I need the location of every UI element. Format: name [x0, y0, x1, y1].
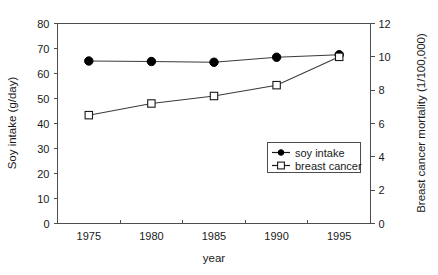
- legend-marker-breast-cancer: [278, 162, 285, 169]
- right-tick-label: 10: [379, 51, 391, 63]
- left-tick-label: 0: [43, 218, 49, 230]
- x-tick-label: 1995: [327, 230, 351, 242]
- data-point-soy-intake: [147, 57, 155, 65]
- right-tick-label: 6: [379, 118, 385, 130]
- x-axis-tick-labels: 19751980198519901995: [77, 230, 352, 242]
- data-point-breast-cancer: [148, 100, 155, 107]
- left-tick-label: 30: [37, 143, 49, 155]
- chart-legend: soy intakebreast cancer: [268, 143, 362, 173]
- x-tick-label: 1975: [77, 230, 101, 242]
- chart-container: 01020304050607080 024681012 197519801985…: [0, 0, 438, 275]
- line-chart: 01020304050607080 024681012 197519801985…: [0, 0, 438, 275]
- left-axis-title: Soy intake (g/day): [6, 76, 18, 169]
- left-tick-label: 80: [37, 18, 49, 30]
- left-tick-label: 50: [37, 93, 49, 105]
- x-axis-ticks: [120, 220, 308, 224]
- x-tick-label: 1990: [264, 230, 288, 242]
- right-tick-label: 8: [379, 84, 385, 96]
- right-tick-label: 2: [379, 184, 385, 196]
- left-tick-label: 20: [37, 168, 49, 180]
- left-tick-label: 60: [37, 68, 49, 80]
- plot-frame: [57, 23, 371, 224]
- data-point-soy-intake: [210, 58, 218, 66]
- data-point-soy-intake: [272, 53, 280, 61]
- left-axis-ticks: 01020304050607080: [37, 18, 57, 230]
- right-tick-label: 0: [379, 218, 385, 230]
- right-axis-ticks: 024681012: [371, 18, 391, 230]
- data-point-breast-cancer: [210, 92, 217, 99]
- data-point-soy-intake: [85, 57, 93, 65]
- left-tick-label: 10: [37, 193, 49, 205]
- right-tick-label: 12: [379, 18, 391, 30]
- legend-label-breast-cancer: breast cancer: [295, 160, 362, 172]
- legend-label-soy-intake: soy intake: [295, 147, 345, 159]
- legend-marker-soy-intake: [278, 150, 284, 156]
- x-tick-label: 1985: [202, 230, 226, 242]
- left-tick-label: 40: [37, 118, 49, 130]
- x-tick-label: 1980: [139, 230, 163, 242]
- x-axis-title: year: [203, 252, 226, 264]
- data-point-breast-cancer: [85, 111, 92, 118]
- left-tick-label: 70: [37, 43, 49, 55]
- data-point-breast-cancer: [336, 53, 343, 60]
- data-point-breast-cancer: [273, 81, 280, 88]
- right-tick-label: 4: [379, 151, 385, 163]
- series-layer: [85, 51, 344, 119]
- right-axis-title: Breast cancer mortality (1/100,000): [415, 33, 427, 213]
